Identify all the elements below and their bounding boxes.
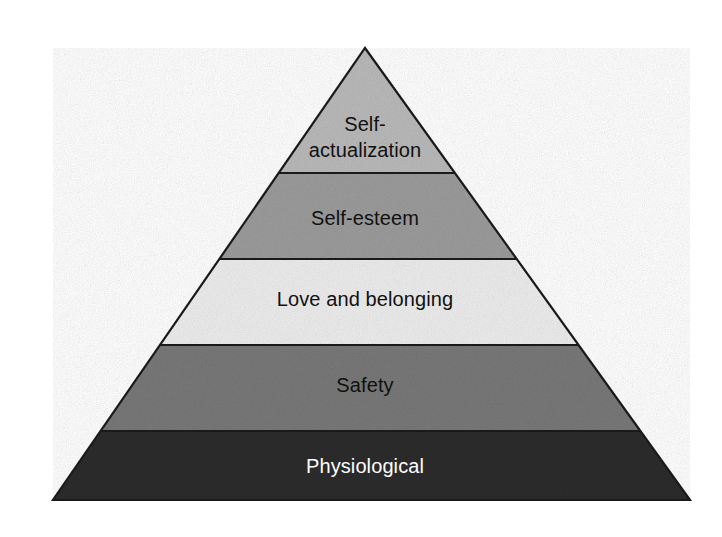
tier-shape-self-actualization[interactable] [279, 48, 455, 173]
pyramid-diagram [0, 0, 722, 537]
tier-shape-love-and-belonging[interactable] [160, 259, 579, 345]
pyramid-tier-group [53, 48, 690, 500]
maslow-pyramid-figure: Self- actualization Self-esteem Love and… [0, 0, 722, 537]
tier-shape-safety[interactable] [101, 345, 641, 431]
tier-shape-self-esteem[interactable] [219, 173, 516, 259]
tier-shape-physiological[interactable] [53, 431, 690, 500]
